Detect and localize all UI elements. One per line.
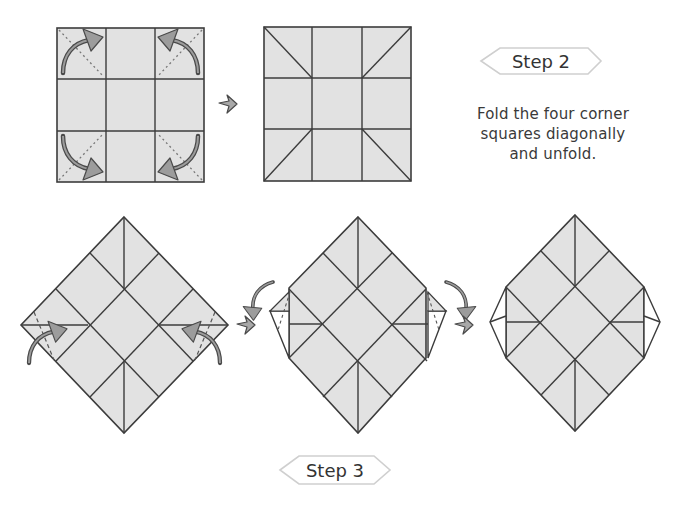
- right-arrow-icon: [219, 95, 237, 113]
- step-3-label: Step 3: [280, 456, 390, 484]
- figure-diamond-folded: [490, 215, 660, 431]
- step-2-text: Step 2: [512, 51, 570, 72]
- instruction-line: and unfold.: [458, 144, 648, 164]
- step-2-label: Step 2: [481, 48, 601, 74]
- step-3-text: Step 3: [306, 460, 364, 481]
- instruction-line: squares diagonally: [458, 124, 648, 144]
- step-2-instruction: Fold the four corner squares diagonally …: [458, 104, 648, 164]
- figure-diamond-folding-in: [239, 217, 480, 433]
- figure-square-with-fold-arrows: [57, 28, 204, 182]
- instruction-line: Fold the four corner: [458, 104, 648, 124]
- figure-square-with-creases: [264, 27, 411, 181]
- right-arrow-icon: [455, 316, 473, 334]
- diagram-canvas: Step 2: [0, 0, 677, 506]
- figure-diamond-with-fold-arrows: [21, 217, 228, 433]
